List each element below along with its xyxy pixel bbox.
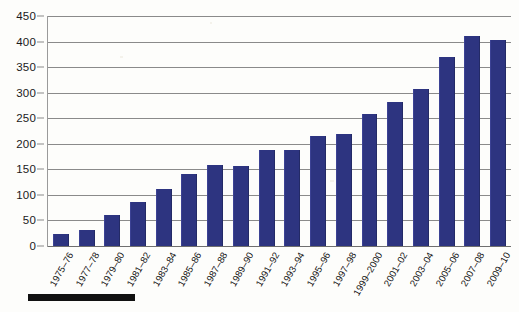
bar <box>336 134 352 246</box>
bar-chart-figure: 050100150200250300350400450 1975–761977–… <box>0 0 519 312</box>
y-axis-tick-mark <box>37 169 44 170</box>
y-axis-tick-mark <box>37 118 44 119</box>
y-axis-tick-label: 200 <box>16 138 36 150</box>
y-axis-tick-label: 100 <box>16 189 36 201</box>
x-axis-tick-label: 2009–10 <box>484 250 512 288</box>
y-axis-tick-label: 350 <box>16 61 36 73</box>
bar <box>413 89 429 246</box>
x-axis-tick-label: 1993–94 <box>279 250 307 288</box>
y-axis-tick-mark <box>37 41 44 42</box>
bar <box>104 215 120 246</box>
bar <box>259 150 275 246</box>
y-axis-tick-mark <box>37 16 44 17</box>
bar <box>130 202 146 246</box>
y-axis-tick-mark <box>37 92 44 93</box>
y-axis-tick-label: 0 <box>29 240 36 252</box>
y-axis-tick-mark <box>37 246 44 247</box>
bar <box>79 230 95 246</box>
bar <box>310 136 326 246</box>
bar <box>362 114 378 246</box>
bar <box>490 40 506 246</box>
x-axis-tick-label: 1979–80 <box>98 250 126 288</box>
scale-rule <box>28 294 135 301</box>
plot-area <box>48 16 511 246</box>
x-axis-tick-label: 1985–86 <box>176 250 204 288</box>
x-axis-tick-label: 1989–90 <box>227 250 255 288</box>
x-axis-tick-label: 2007–08 <box>459 250 487 288</box>
gridline <box>48 246 511 247</box>
bar <box>53 234 69 246</box>
x-axis-tick-label: 2001–02 <box>381 250 409 288</box>
x-axis: 1975–761977–781979–801981–821983–841985–… <box>48 248 511 294</box>
y-axis-tick-label: 150 <box>16 163 36 175</box>
bar <box>181 174 197 246</box>
x-axis-tick-label: 1987–88 <box>201 250 229 288</box>
y-axis-tick-mark <box>37 220 44 221</box>
bar <box>233 166 249 246</box>
bar <box>207 165 223 246</box>
bar <box>156 189 172 246</box>
y-axis: 050100150200250300350400450 <box>0 16 44 246</box>
y-axis-tick-label: 450 <box>16 10 36 22</box>
y-axis-tick-label: 300 <box>16 87 36 99</box>
y-axis-tick-mark <box>37 143 44 144</box>
y-axis-tick-label: 50 <box>23 214 36 226</box>
y-axis-tick-label: 400 <box>16 36 36 48</box>
bar <box>464 36 480 246</box>
x-axis-tick-label: 2003–04 <box>407 250 435 288</box>
bar <box>284 150 300 246</box>
bar <box>387 102 403 246</box>
x-axis-tick-label: 1981–82 <box>124 250 152 288</box>
x-axis-tick-label: 1997–98 <box>330 250 358 288</box>
bars-series <box>48 16 511 246</box>
y-axis-tick-label: 250 <box>16 112 36 124</box>
y-axis-tick-mark <box>37 194 44 195</box>
x-axis-tick-label: 1995–96 <box>304 250 332 288</box>
y-axis-tick-mark <box>37 67 44 68</box>
bar <box>439 57 455 246</box>
x-axis-tick-label: 1975–76 <box>47 250 75 288</box>
